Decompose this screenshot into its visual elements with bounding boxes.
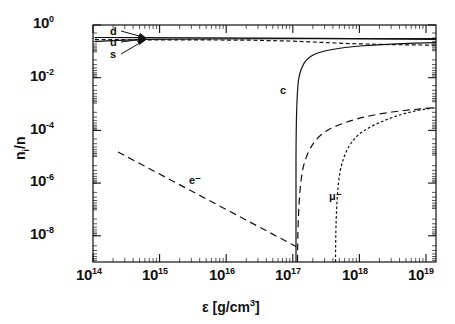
x-tick-label-0: 1014 xyxy=(76,266,102,283)
y-tick-exp-0: 0 xyxy=(49,14,54,24)
x-axis-title-tail: ] xyxy=(255,299,260,315)
x-tick-exp-3: 17 xyxy=(291,266,301,276)
figure-container: 100 10-2 10-4 10-6 10-8 1014 1015 1016 1… xyxy=(0,0,455,324)
x-tick-exp-4: 18 xyxy=(358,266,368,276)
x-tick-label-2: 1016 xyxy=(209,266,235,283)
annotation-arrows xyxy=(121,31,146,54)
y-tick-exp-3: -6 xyxy=(46,172,54,182)
x-axis-title: ε [g/cm3] xyxy=(202,298,260,315)
x-minor-ticks xyxy=(113,25,423,262)
y-minor-ticks xyxy=(93,33,436,260)
y-axis-title-tail: /n xyxy=(12,136,28,148)
axes-frame xyxy=(93,25,436,262)
x-axis-title-main: ε [g/cm xyxy=(202,299,250,315)
x-tick-exp-5: 19 xyxy=(424,266,434,276)
curve-annotation-muon: μ⁻ xyxy=(329,190,342,203)
curve-e-high xyxy=(298,108,437,262)
curve-annotation-c: c xyxy=(280,84,286,96)
curve-c xyxy=(296,43,436,262)
y-tick-exp-1: -2 xyxy=(46,67,54,77)
data-curves xyxy=(95,38,436,263)
x-tick-label-3: 1017 xyxy=(275,266,301,283)
x-major-ticks xyxy=(93,25,426,262)
y-major-ticks xyxy=(93,25,436,236)
y-tick-label-4: 10-8 xyxy=(30,225,54,242)
plot-frame xyxy=(93,25,436,262)
x-tick-exp-0: 14 xyxy=(92,266,102,276)
y-tick-label-1: 10-2 xyxy=(30,67,54,84)
y-axis-title: ni/n xyxy=(12,136,31,160)
y-tick-label-3: 10-6 xyxy=(30,172,54,189)
y-tick-label-2: 10-4 xyxy=(30,120,54,137)
y-axis-title-main: n xyxy=(12,151,28,160)
y-tick-exp-2: -4 xyxy=(46,120,54,130)
curve-annotation-u: u xyxy=(110,36,117,48)
y-tick-label-0: 100 xyxy=(33,14,54,31)
x-tick-label-5: 1019 xyxy=(408,266,434,283)
x-tick-exp-1: 15 xyxy=(158,266,168,276)
y-axis-title-sub: i xyxy=(21,149,31,152)
curve-mu xyxy=(336,108,437,262)
curve-e-low xyxy=(118,152,296,247)
curve-annotation-electron: e⁻ xyxy=(189,174,201,187)
x-tick-label-4: 1018 xyxy=(342,266,368,283)
x-tick-label-1: 1015 xyxy=(142,266,168,283)
x-tick-exp-2: 16 xyxy=(225,266,235,276)
y-tick-exp-4: -8 xyxy=(46,225,54,235)
curve-annotation-s: s xyxy=(110,48,116,60)
